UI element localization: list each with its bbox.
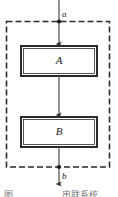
figure-caption: 图 串联系统 <box>0 188 118 197</box>
block-label-a: A <box>21 55 97 66</box>
signal-label-b: b <box>62 172 67 181</box>
diagram-canvas <box>0 0 118 197</box>
series-system-figure: a A B b 图 串联系统 <box>0 0 118 197</box>
signal-label-a: a <box>62 10 67 19</box>
output-node-dot <box>57 165 61 169</box>
caption-right-fragment: 串联系统 <box>62 188 98 197</box>
caption-left-fragment: 图 <box>4 188 13 197</box>
block-label-b: B <box>21 126 97 137</box>
input-node-dot <box>57 19 61 23</box>
